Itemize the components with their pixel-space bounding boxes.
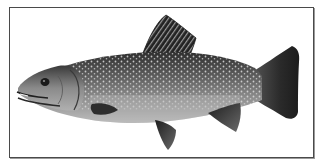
dorsal-fin (143, 15, 196, 55)
fish-head (18, 66, 84, 111)
eye (41, 78, 50, 86)
trout-illustration (0, 0, 319, 167)
pelvic-fin (155, 120, 176, 150)
